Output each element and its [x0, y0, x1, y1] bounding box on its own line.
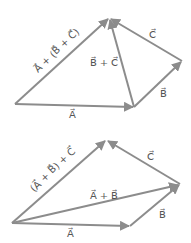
label-a: A⃗ [69, 108, 76, 120]
label-b-plus-c: B⃗ + C⃗ [90, 56, 119, 68]
label-b: B⃗ [160, 87, 167, 99]
vector-sum [12, 141, 105, 223]
label-a: A⃗ [67, 227, 74, 239]
label-b: B⃗ [159, 208, 166, 220]
label-c: C⃗ [147, 150, 154, 162]
top-figure: A⃗ B⃗ C⃗ B⃗ + C⃗ A⃗ + (B⃗ + C⃗) [15, 19, 182, 120]
vector-addition-diagram: A⃗ B⃗ C⃗ B⃗ + C⃗ A⃗ + (B⃗ + C⃗) A⃗ B⃗ C⃗… [0, 0, 191, 243]
vector-c [111, 19, 182, 61]
vector-c [108, 141, 180, 184]
label-a-plus-b: A⃗ + B⃗ [90, 189, 119, 201]
label-c: C⃗ [149, 28, 156, 40]
vector-b [134, 62, 181, 107]
vector-a [15, 104, 133, 107]
vector-a [12, 223, 129, 226]
bottom-figure: A⃗ B⃗ C⃗ A⃗ + B⃗ (A⃗ + B⃗) + C⃗ [12, 141, 180, 239]
